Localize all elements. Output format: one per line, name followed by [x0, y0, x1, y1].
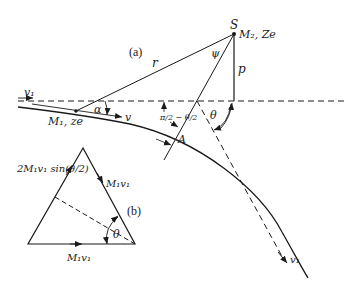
- v1-out-arrow-icon: [278, 252, 287, 263]
- apsis-angle-arrow-down-icon: [170, 122, 178, 127]
- v-label: v: [125, 111, 132, 124]
- p-label: p: [238, 62, 246, 76]
- psi-label: ψ: [211, 47, 220, 60]
- v1-out-label: v₁: [290, 254, 300, 265]
- b-theta-arrow-top-icon: [112, 216, 118, 221]
- momentum-change-label: 2M₁v₁ sin(θ/2): [16, 163, 89, 174]
- trajectory-curve: [18, 107, 308, 278]
- alpha-label: α: [94, 103, 102, 116]
- distance-r-line: [76, 34, 234, 111]
- alpha-angle-arc: [105, 101, 107, 115]
- right-side-arrow-icon: [97, 173, 103, 183]
- s-label: S: [230, 18, 238, 32]
- initial-momentum-label: M₁v₁: [66, 252, 91, 263]
- m1-label: M₁, ze: [47, 115, 83, 128]
- part-a-label: (a): [129, 45, 142, 59]
- bisector-dashed-line: [55, 197, 135, 244]
- apsis-line: [164, 34, 234, 160]
- theta-label: θ: [210, 109, 217, 122]
- apsis-angle-label: π/2 − θ/2: [159, 113, 197, 122]
- r-label: r: [152, 56, 159, 70]
- rutherford-scattering-diagram: (a) r S M₂, Ze ψ p v₁ α M₁, ze v θ π/2 −…: [0, 0, 350, 283]
- b-theta-label: θ: [113, 228, 120, 241]
- trajectory-arrow-icon: [156, 139, 171, 145]
- outgoing-asymptote-line: [197, 101, 284, 260]
- part-b-label: (b): [127, 204, 141, 218]
- v1-in-label: v₁: [24, 86, 35, 99]
- final-momentum-label: M₁v₁: [105, 178, 130, 189]
- apsis-point-label: A: [177, 133, 186, 146]
- m2-label: M₂, Ze: [238, 28, 276, 41]
